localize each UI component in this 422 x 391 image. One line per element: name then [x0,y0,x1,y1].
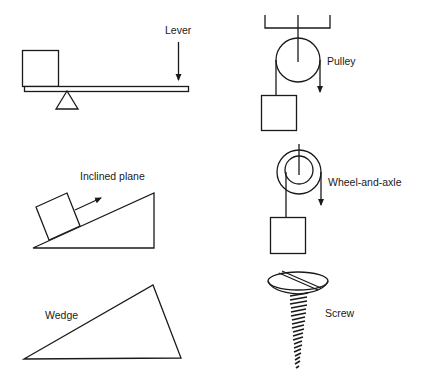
pulley-label: Pulley [327,55,356,67]
pulley-load-box [262,96,297,131]
screw-threads [290,293,308,368]
lever-beam [25,87,189,92]
inclined-plane-label: Inclined plane [80,170,145,182]
wedge-label: Wedge [45,309,78,321]
inclined-plane-diagram: Inclined plane [33,170,154,248]
wheel-axle-load-box [271,218,306,254]
wheel-and-axle-diagram: Wheel-and-axle [271,144,402,254]
lever-load-box [23,51,59,87]
lever-label: Lever [165,24,192,36]
inclined-plane-box [36,193,80,240]
wedge-diagram: Wedge [24,285,181,359]
screw-slot-a [279,273,318,290]
wheel-and-axle-label: Wheel-and-axle [328,176,402,188]
screw-label: Screw [325,307,355,319]
screw-diagram: Screw [268,271,355,368]
pulley-diagram: Pulley [262,15,357,131]
inclined-plane-force-arrow [75,198,101,210]
lever-diagram: Lever [23,24,192,109]
lever-fulcrum [56,91,78,109]
wedge-triangle [24,285,181,359]
simple-machines-diagram: Lever Pulley Inclined plane Wheel-and-ax… [0,0,422,391]
